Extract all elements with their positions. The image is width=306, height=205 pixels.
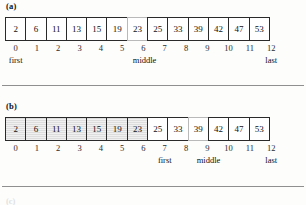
pointer-label-empty [111, 155, 132, 165]
panel-a-divider-rule [2, 85, 304, 86]
panel-a-label: (a) [6, 1, 17, 11]
array-cell: 19 [106, 117, 127, 141]
pointer-label-empty [26, 155, 47, 165]
array-index-label: 9 [197, 143, 218, 153]
array-index-label: 12 [261, 143, 282, 153]
array-cell: 33 [167, 117, 188, 141]
array-pointers-panel-a: firstmiddlelast [5, 55, 282, 65]
array-index-label: 7 [154, 143, 175, 153]
array-index-label: 11 [239, 143, 260, 153]
pointer-label-first: first [154, 155, 175, 165]
array-cell: 42 [208, 117, 229, 141]
pointer-label-empty [26, 55, 47, 65]
array-cell: 6 [25, 17, 46, 41]
pointer-label-empty [239, 55, 260, 65]
array-cell: 23 [127, 17, 148, 41]
pointer-label-empty [69, 55, 90, 65]
pointer-label-empty [90, 55, 111, 65]
array-cell: 23 [127, 117, 148, 141]
array-cell: 47 [228, 117, 249, 141]
pointer-label-empty [218, 55, 239, 65]
pointer-label-middle: middle [197, 155, 218, 165]
array-index-label: 8 [175, 143, 196, 153]
array-cells-panel-b: 261113151923253339424753 [5, 117, 269, 141]
array-index-label: 4 [90, 43, 111, 53]
array-index-label: 10 [218, 43, 239, 53]
array-index-label: 0 [5, 43, 26, 53]
array-index-label: 5 [111, 43, 132, 53]
array-pointers-panel-b: firstmiddlelast [5, 155, 282, 165]
pointer-label-empty [111, 55, 132, 65]
pointer-label-middle: middle [133, 55, 154, 65]
array-index-label: 5 [111, 143, 132, 153]
array-cell: 53 [249, 17, 270, 41]
array-cell: 25 [147, 17, 168, 41]
pointer-label-first: first [5, 55, 26, 65]
array-index-label: 7 [154, 43, 175, 53]
array-cell: 6 [25, 117, 46, 141]
panel-c-label-cropped: (c) [6, 196, 15, 205]
pointer-label-last: last [261, 55, 282, 65]
array-index-label: 1 [26, 143, 47, 153]
pointer-label-empty [154, 55, 175, 65]
pointer-label-empty [48, 155, 69, 165]
array-cell: 25 [147, 117, 168, 141]
panel-b-divider-rule [2, 186, 304, 187]
array-index-label: 9 [197, 43, 218, 53]
array-cell: 33 [167, 17, 188, 41]
array-cell: 13 [66, 117, 87, 141]
array-index-label: 1 [26, 43, 47, 53]
array-cell: 15 [86, 117, 107, 141]
array-cell: 13 [66, 17, 87, 41]
array-cell: 19 [106, 17, 127, 41]
array-cell: 53 [249, 117, 270, 141]
pointer-label-empty [239, 155, 260, 165]
array-index-label: 10 [218, 143, 239, 153]
pointer-label-empty [218, 155, 239, 165]
pointer-label-empty [90, 155, 111, 165]
array-index-label: 3 [69, 43, 90, 53]
pointer-label-empty [69, 155, 90, 165]
array-cell: 47 [228, 17, 249, 41]
array-index-label: 6 [133, 143, 154, 153]
pointer-label-empty [133, 155, 154, 165]
array-cells-panel-a: 261113151923253339424753 [5, 17, 269, 41]
array-indices-panel-b: 0123456789101112 [5, 143, 282, 153]
array-index-label: 2 [48, 43, 69, 53]
pointer-label-empty [175, 155, 196, 165]
array-cell: 39 [188, 17, 209, 41]
pointer-label-last: last [261, 155, 282, 165]
array-index-label: 8 [175, 43, 196, 53]
array-cell: 42 [208, 17, 229, 41]
array-index-label: 2 [48, 143, 69, 153]
array-index-label: 12 [261, 43, 282, 53]
array-index-label: 0 [5, 143, 26, 153]
array-index-label: 3 [69, 143, 90, 153]
pointer-label-empty [5, 155, 26, 165]
panel-b-label: (b) [6, 101, 17, 111]
array-indices-panel-a: 0123456789101112 [5, 43, 282, 53]
array-cell: 39 [188, 117, 209, 141]
pointer-label-empty [197, 55, 218, 65]
array-index-label: 11 [239, 43, 260, 53]
array-cell: 11 [46, 117, 67, 141]
array-index-label: 4 [90, 143, 111, 153]
array-index-label: 6 [133, 43, 154, 53]
array-cell: 2 [5, 17, 26, 41]
array-cell: 11 [46, 17, 67, 41]
array-cell: 2 [5, 117, 26, 141]
array-cell: 15 [86, 17, 107, 41]
pointer-label-empty [48, 55, 69, 65]
pointer-label-empty [175, 55, 196, 65]
